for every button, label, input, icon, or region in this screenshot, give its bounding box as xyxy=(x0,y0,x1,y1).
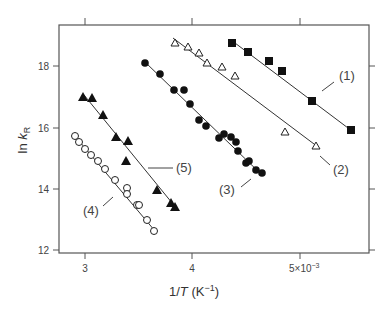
fit-line-5 xyxy=(84,95,177,209)
label-series-5: (5) xyxy=(176,160,192,175)
series-4-markers xyxy=(72,133,158,235)
y-tick-14: 14 xyxy=(38,184,50,195)
y-tick-18: 18 xyxy=(38,61,50,72)
y-tick-12: 12 xyxy=(38,245,50,256)
y-tick-16: 16 xyxy=(38,123,50,134)
x-tick-3: 3 xyxy=(82,263,88,274)
x-tick-4: 4 xyxy=(189,263,195,274)
y-axis-ticks xyxy=(53,66,375,250)
plot-frame xyxy=(59,25,369,253)
label-series-4: (4) xyxy=(83,203,99,218)
fit-line-3 xyxy=(145,62,262,175)
x-tick-labels: 3 4 5×10−3 xyxy=(82,262,319,274)
label-series-3: (3) xyxy=(219,182,235,197)
y-tick-labels: 18 16 14 12 xyxy=(38,61,50,256)
y-axis-title: ln kR xyxy=(15,126,32,153)
arrhenius-plot: 18 16 14 12 3 4 5×10−3 1/T (K−1) ln kR xyxy=(0,0,389,312)
label-series-1: (1) xyxy=(339,68,355,83)
x-axis-title: 1/T (K−1) xyxy=(169,283,219,299)
x-tick-5: 5×10−3 xyxy=(289,262,320,274)
label-series-2: (2) xyxy=(333,162,349,177)
series-1-markers xyxy=(228,39,355,134)
